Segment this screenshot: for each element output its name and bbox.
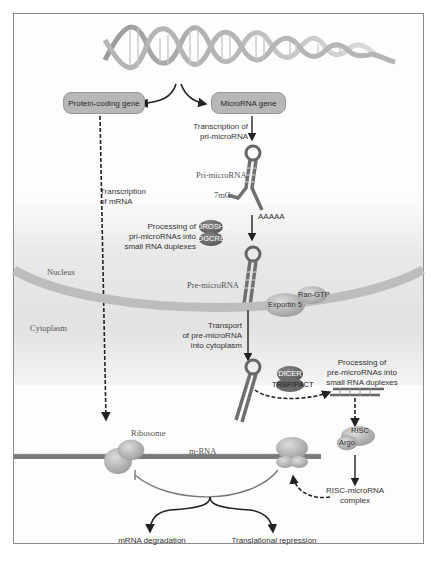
label-7mg: 7mG — [214, 190, 231, 200]
label-line: Transcription — [100, 187, 146, 197]
label-processing-pri: Processing of pri-microRNAs into small R… — [118, 222, 196, 252]
label-line: of mRNA — [100, 197, 146, 207]
label-drosha: DROSHA — [197, 222, 225, 231]
label-dgcr8: DGCR8 — [197, 234, 225, 243]
label-processing-pre: Processing of pre-microRNAs into small R… — [318, 358, 406, 388]
label-line: into cytoplasm — [170, 341, 242, 351]
label-line: Processing of — [118, 222, 196, 232]
label-line: Processing of — [318, 358, 406, 368]
inhibition-arc — [135, 470, 278, 497]
label-mrna-degradation: mRNA degradation — [110, 536, 194, 546]
risc-on-mrna-icon — [276, 437, 308, 468]
protein-coding-gene-box: Protein-coding gene — [63, 92, 145, 114]
label-exportin: Exportin 5 — [264, 300, 306, 309]
ribosome-icon — [104, 440, 144, 474]
arrow-to-protein-gene — [140, 84, 176, 104]
label-mrna: m-RNA — [189, 446, 216, 456]
label-line: complex — [320, 496, 390, 506]
label-line: Transcription of — [180, 122, 248, 132]
label-risc: RISC — [350, 426, 370, 435]
label-line: pri-microRNAs into — [118, 232, 196, 242]
pre-microrna-hairpin-icon — [242, 247, 260, 306]
label-ran-gtp: Ran-GTP — [298, 290, 328, 299]
dna-helix-icon — [105, 27, 395, 68]
label-nucleus: Nucleus — [47, 267, 75, 277]
label-line: pri-microRNA — [180, 132, 248, 142]
label-line: Transport — [170, 321, 242, 331]
label-line: RISC-microRNA — [320, 486, 390, 496]
arrow-to-degradation — [150, 497, 210, 532]
label-dicer: DICER — [276, 369, 304, 378]
label-trbp-pact: TRBP/PACT — [272, 380, 308, 389]
label-line: pre-microRNAs into — [318, 368, 406, 378]
label-line: of pre-microRNA — [170, 331, 242, 341]
arrow-to-repression — [210, 497, 273, 532]
arrow-to-microrna-gene — [181, 84, 206, 104]
label-transport: Transport of pre-microRNA into cytoplasm — [170, 321, 242, 351]
label-line: small RNA duplexes — [118, 242, 196, 252]
mrna-strand-icon — [14, 454, 321, 459]
label-ribosome: Ribosome — [131, 428, 165, 438]
label-line: small RNA duplexes — [318, 378, 406, 388]
dashed-arrow-mrna-path — [100, 116, 106, 420]
label-aaaaa: AAAAA — [258, 212, 285, 222]
label-argo: Argo — [337, 438, 357, 447]
label-pri-microrna: Pri-microRNA — [196, 170, 247, 180]
small-rna-duplex-icon — [330, 388, 384, 396]
label-translational-repression: Translational repression — [228, 536, 320, 546]
label-transcription-pri: Transcription of pri-microRNA — [180, 122, 248, 142]
label-cytoplasm: Cytoplasm — [30, 323, 67, 333]
microrna-gene-box: MicroRNA gene — [211, 92, 286, 114]
label-risc-complex: RISC-microRNA complex — [320, 486, 390, 506]
label-pre-microrna: Pre-microRNA — [187, 280, 239, 290]
label-transcription-mrna: Transcription of mRNA — [100, 187, 146, 207]
